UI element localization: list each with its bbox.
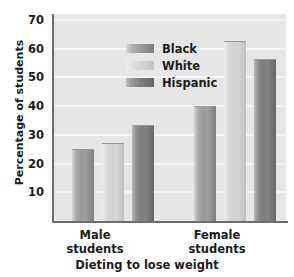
legend-label-black: Black: [162, 42, 197, 56]
y-axis-tick-30: 30: [20, 130, 44, 140]
x-axis-group-line: Male: [40, 228, 150, 242]
bar-chart-figure: Percentage of students 10203040506070 Bl…: [0, 0, 294, 277]
x-axis-group-line: Female: [162, 228, 272, 242]
x-axis-group-line: students: [40, 242, 150, 256]
legend-label-hispanic: Hispanic: [162, 76, 217, 90]
y-axis-tick-20: 20: [20, 159, 44, 169]
bar-hispanic-male: [132, 125, 154, 221]
chart-legend: BlackWhiteHispanic: [126, 40, 246, 91]
legend-label-white: White: [162, 59, 200, 73]
gridline-30: [54, 134, 286, 136]
bar-black-female: [194, 106, 216, 221]
legend-item-white: White: [126, 57, 246, 74]
gridline-40: [54, 105, 286, 107]
plot-area: BlackWhiteHispanic: [52, 14, 286, 221]
x-axis-line: [52, 221, 288, 223]
y-axis-tick-40: 40: [20, 101, 44, 111]
y-axis-tick-50: 50: [20, 72, 44, 82]
bar-black-male: [72, 149, 94, 221]
x-axis-group-label-female: Femalestudents: [162, 228, 272, 256]
bar-hispanic-female: [254, 59, 276, 221]
legend-swatch-black: [126, 44, 154, 53]
x-axis-title: Dieting to lose weight: [0, 258, 294, 272]
x-axis-group-label-male: Malestudents: [40, 228, 150, 256]
y-axis-tick-60: 60: [20, 44, 44, 54]
legend-item-hispanic: Hispanic: [126, 74, 246, 91]
gridline-70: [54, 19, 286, 21]
bar-white-male: [102, 143, 124, 221]
y-axis-tick-10: 10: [20, 187, 44, 197]
y-axis-tick-70: 70: [20, 15, 44, 25]
legend-swatch-hispanic: [126, 78, 154, 87]
x-axis-group-line: students: [162, 242, 272, 256]
legend-swatch-white: [126, 61, 154, 70]
legend-item-black: Black: [126, 40, 246, 57]
